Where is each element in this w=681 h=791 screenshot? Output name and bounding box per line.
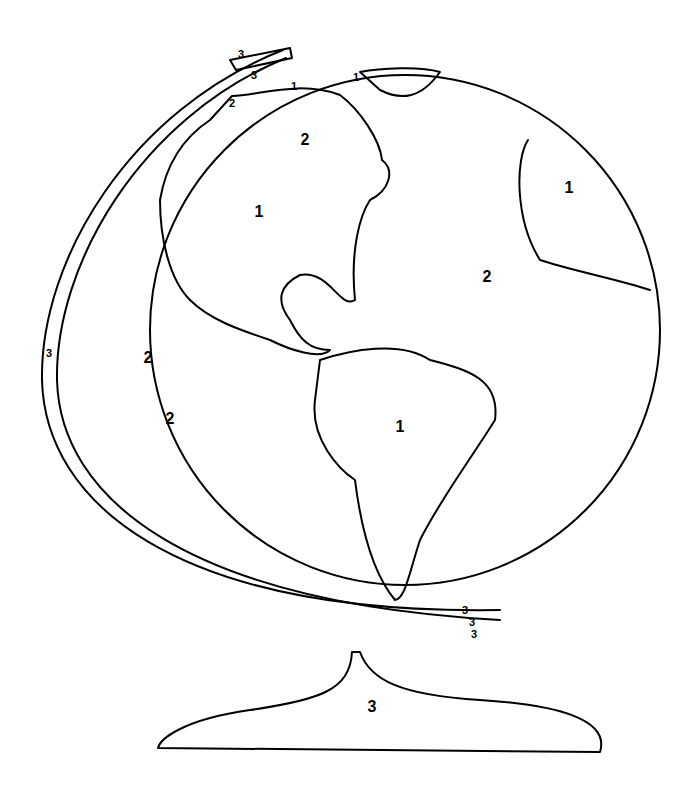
globe-sphere bbox=[150, 75, 660, 585]
region-label-alaska-water: 2 bbox=[229, 98, 235, 109]
region-label-meridian-knob: 3 bbox=[471, 629, 477, 640]
region-label-meridian-clip-bottom: 3 bbox=[462, 605, 468, 616]
north-america bbox=[160, 88, 389, 354]
region-label-europe-africa: 1 bbox=[565, 180, 574, 196]
region-label-meridian-clip-top: 3 bbox=[251, 70, 257, 81]
meridian-ring bbox=[42, 50, 500, 610]
region-label-greenland: 1 bbox=[353, 72, 359, 83]
greenland bbox=[360, 68, 440, 96]
region-label-meridian-bottom: 3 bbox=[469, 617, 475, 628]
stand bbox=[158, 652, 601, 752]
region-label-meridian-side: 3 bbox=[46, 348, 52, 359]
region-label-meridian-top: 3 bbox=[238, 49, 244, 60]
globe-drawing bbox=[0, 0, 681, 791]
south-america bbox=[314, 348, 495, 600]
region-label-pacific-2: 2 bbox=[166, 411, 175, 427]
europe-africa bbox=[519, 140, 650, 290]
region-label-arctic-canada: 1 bbox=[291, 81, 297, 92]
region-label-atlantic: 2 bbox=[483, 269, 492, 285]
region-label-pacific-1: 2 bbox=[144, 350, 153, 366]
region-label-hudson-bay: 2 bbox=[301, 132, 310, 148]
region-label-north-america: 1 bbox=[255, 204, 264, 220]
region-label-south-america: 1 bbox=[396, 419, 405, 435]
region-label-stand-base: 3 bbox=[368, 699, 377, 715]
